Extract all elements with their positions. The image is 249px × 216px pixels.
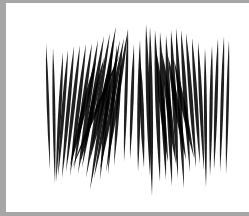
artwork-canvas (0, 0, 249, 216)
needle-stroke (149, 27, 153, 196)
needle-stroke (155, 30, 161, 182)
needle-stroke (139, 56, 144, 168)
needle-stroke (52, 48, 55, 184)
needle-stroke (226, 40, 229, 174)
needle-stroke (130, 44, 134, 160)
needle-stroke (214, 38, 218, 170)
needle-stroke (220, 36, 224, 172)
needle-stroke (204, 48, 207, 188)
needle-stroke (46, 43, 50, 170)
needle-stroke (209, 46, 213, 176)
needle-strokes (46, 24, 229, 196)
